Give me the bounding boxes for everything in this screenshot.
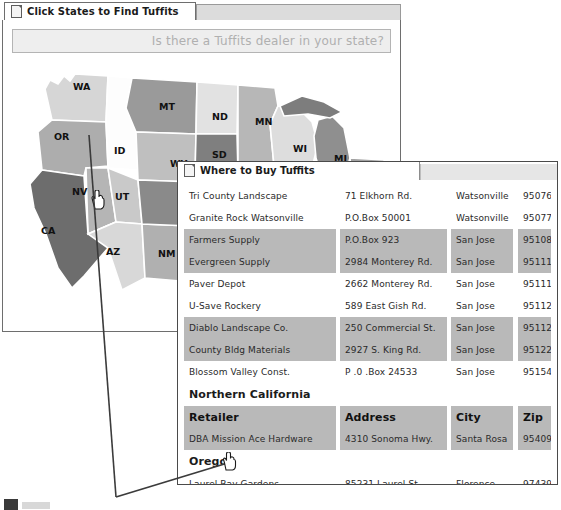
cell-zip: 95409 <box>518 428 551 450</box>
cell-city: Florence <box>451 473 513 484</box>
dealer-window-titlebar[interactable]: Where to Buy Tuffits <box>178 162 557 180</box>
cell-city: San Jose <box>451 251 513 273</box>
table-row[interactable]: County Bldg Materials2927 S. King Rd.San… <box>184 339 551 361</box>
taskbar-item[interactable] <box>22 502 50 509</box>
cell-city: Watsonville <box>451 207 513 229</box>
map-state-label-mn: MN <box>255 116 272 127</box>
map-state-label-wa: WA <box>73 81 91 92</box>
cell-retailer: Paver Depot <box>184 273 336 295</box>
table-row[interactable]: Evergreen Supply2984 Monterey Rd.San Jos… <box>184 251 551 273</box>
table-row[interactable]: DBA Mission Ace Hardware4310 Sonoma Hwy.… <box>184 428 551 450</box>
cell-address: 71 Elkhorn Rd. <box>340 185 447 207</box>
cell-city: San Jose <box>451 295 513 317</box>
dealer-window-body: Tri County Landscape71 Elkhorn Rd.Watson… <box>178 181 557 484</box>
cell-zip: 95154 <box>518 361 551 383</box>
map-state-nd[interactable] <box>196 82 238 134</box>
cell-city: San Jose <box>451 229 513 251</box>
taskbar <box>0 498 561 510</box>
tab-strip: Click States to Find Tuffits <box>2 1 401 21</box>
cell-retailer: Diablo Landscape Co. <box>184 317 336 339</box>
cell-zip: 95112 <box>518 317 551 339</box>
cell-zip: 95108 <box>518 229 551 251</box>
hand-pointer-cursor-table <box>222 452 237 471</box>
map-state-label-nv: NV <box>72 186 88 197</box>
banner: Is there a Tuffits dealer in your state? <box>12 29 391 53</box>
column-header-city: City <box>451 406 513 428</box>
section-header-label: Oregon <box>184 450 551 473</box>
tab-click-states-to-find-tuffits[interactable]: Click States to Find Tuffits <box>4 2 196 20</box>
table-row[interactable]: Blossom Valley Const.P .0 .Box 24533San … <box>184 361 551 383</box>
map-state-label-or: OR <box>54 131 70 142</box>
table-row[interactable]: U-Save Rockery589 East Gish Rd.San Jose9… <box>184 295 551 317</box>
table-row[interactable]: Laurel Bay Gardens85231 Laurel St.Floren… <box>184 473 551 484</box>
cell-address: 589 East Gish Rd. <box>340 295 447 317</box>
column-header-retailer: Retailer <box>184 406 336 428</box>
column-header-zip: Zip <box>518 406 551 428</box>
cell-retailer: U-Save Rockery <box>184 295 336 317</box>
cell-address: 2927 S. King Rd. <box>340 339 447 361</box>
cell-zip: 95112 <box>518 295 551 317</box>
cell-address: P.O.Box 50001 <box>340 207 447 229</box>
cell-address: 85231 Laurel St. <box>340 473 447 484</box>
cell-city: Santa Rosa <box>451 428 513 450</box>
cell-retailer: Evergreen Supply <box>184 251 336 273</box>
dealer-title-filler <box>420 164 557 180</box>
cell-address: P.O.Box 923 <box>340 229 447 251</box>
cell-address: 2662 Monterey Rd. <box>340 273 447 295</box>
document-icon <box>184 164 195 177</box>
cell-city: San Jose <box>451 317 513 339</box>
cell-address: 2984 Monterey Rd. <box>340 251 447 273</box>
table-row[interactable]: Paver Depot2662 Monterey Rd.San Jose9511… <box>184 273 551 295</box>
table-row[interactable]: Diablo Landscape Co.250 Commercial St.Sa… <box>184 317 551 339</box>
cell-retailer: County Bldg Materials <box>184 339 336 361</box>
cell-city: San Jose <box>451 361 513 383</box>
hand-pointer-cursor <box>90 190 106 210</box>
cell-retailer: DBA Mission Ace Hardware <box>184 428 336 450</box>
table-section-header: Northern California <box>184 383 551 406</box>
map-state-mi-upper[interactable] <box>280 96 342 118</box>
cell-address: P .0 .Box 24533 <box>340 361 447 383</box>
dealer-window-title: Where to Buy Tuffits <box>200 165 315 176</box>
dealer-table: Tri County Landscape71 Elkhorn Rd.Watson… <box>184 185 551 484</box>
cell-retailer: Tri County Landscape <box>184 185 336 207</box>
dealer-window: Where to Buy Tuffits Tri County Landscap… <box>177 161 558 485</box>
cell-zip: 95077 <box>518 207 551 229</box>
cell-city: San Jose <box>451 273 513 295</box>
table-row[interactable]: Farmers SupplyP.O.Box 923San Jose95108 <box>184 229 551 251</box>
table-row[interactable]: Tri County Landscape71 Elkhorn Rd.Watson… <box>184 185 551 207</box>
cell-zip: 95111 <box>518 251 551 273</box>
cell-retailer: Granite Rock Watsonville <box>184 207 336 229</box>
tab-label: Click States to Find Tuffits <box>27 6 179 17</box>
cell-city: Watsonville <box>451 185 513 207</box>
cell-address: 250 Commercial St. <box>340 317 447 339</box>
cell-zip: 97439 <box>518 473 551 484</box>
cell-zip: 95111 <box>518 273 551 295</box>
table-row[interactable]: Granite Rock WatsonvilleP.O.Box 50001Wat… <box>184 207 551 229</box>
map-state-label-id: ID <box>114 145 126 156</box>
map-state-label-ca: CA <box>41 225 56 236</box>
map-state-label-wi: WI <box>293 143 307 154</box>
cell-retailer: Laurel Bay Gardens <box>184 473 336 484</box>
map-state-label-nd: ND <box>212 111 228 122</box>
cell-address: 4310 Sonoma Hwy. <box>340 428 447 450</box>
start-button-icon[interactable] <box>4 499 18 510</box>
map-state-label-mt: MT <box>159 101 175 112</box>
document-icon <box>11 5 22 18</box>
map-state-label-nm: NM <box>158 248 175 259</box>
tab-inactive[interactable] <box>196 4 401 20</box>
cell-zip: 95076 <box>518 185 551 207</box>
banner-text: Is there a Tuffits dealer in your state? <box>152 34 384 48</box>
map-state-label-ut: UT <box>115 191 130 202</box>
cell-city: San Jose <box>451 339 513 361</box>
map-state-label-az: AZ <box>106 246 120 257</box>
cell-retailer: Farmers Supply <box>184 229 336 251</box>
cell-zip: 95122 <box>518 339 551 361</box>
map-state-label-sd: SD <box>212 149 227 160</box>
section-header-label: Northern California <box>184 383 551 406</box>
table-section-header: Oregon <box>184 450 551 473</box>
cell-retailer: Blossom Valley Const. <box>184 361 336 383</box>
column-header-address: Address <box>340 406 447 428</box>
table-column-header-row: RetailerAddressCityZip <box>184 406 551 428</box>
